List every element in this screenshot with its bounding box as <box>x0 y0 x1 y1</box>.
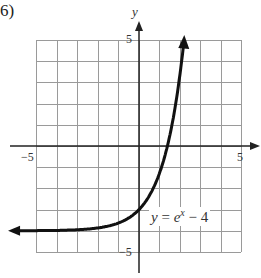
y-axis-arrow-icon <box>135 21 143 31</box>
y-axis-label: y <box>132 4 138 20</box>
curve-left-arrow-icon <box>8 226 20 236</box>
tick-x-neg5: −5 <box>21 150 34 165</box>
eq-y: y <box>151 209 158 225</box>
eq-equals: = <box>158 209 174 225</box>
equation-label: y = ex − 4 <box>149 207 210 226</box>
x-axis-arrow-icon <box>250 142 260 150</box>
curve-right-arrow-icon <box>178 35 189 49</box>
eq-rest: − 4 <box>185 209 208 225</box>
tick-x-5: 5 <box>237 150 243 165</box>
tick-y-5: 5 <box>126 32 132 47</box>
curve-exp <box>18 47 183 231</box>
tick-y-neg5: −5 <box>119 245 132 260</box>
